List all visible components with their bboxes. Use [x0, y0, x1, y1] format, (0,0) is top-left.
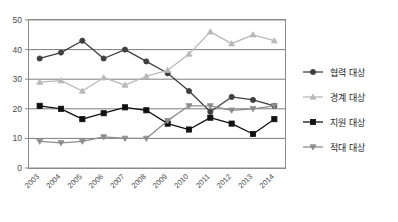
data-point	[208, 115, 213, 120]
data-point	[229, 121, 234, 126]
data-point	[229, 94, 234, 99]
y-axis-label: 40	[13, 45, 23, 55]
data-point	[80, 117, 85, 122]
legend-label: 경계 대상	[330, 92, 365, 103]
line-chart: 01020304050 2003200420052006200720082009…	[0, 0, 398, 222]
data-point	[80, 38, 85, 43]
legend-swatch-marker	[310, 119, 315, 124]
legend-label: 협력 대상	[330, 67, 365, 78]
y-axis-label: 30	[13, 74, 23, 84]
y-axis-label: 10	[13, 133, 23, 143]
legend-label: 적대 대상	[330, 142, 365, 153]
data-point	[122, 105, 127, 110]
data-point	[208, 109, 213, 114]
data-point	[186, 127, 191, 132]
data-point	[37, 103, 42, 108]
y-axis-label: 0	[17, 163, 22, 173]
data-point	[101, 111, 106, 116]
data-point	[250, 131, 255, 136]
y-axis-label: 20	[13, 104, 23, 114]
data-point	[144, 59, 149, 64]
data-point	[272, 117, 277, 122]
legend-swatch-marker	[310, 69, 315, 74]
chart-svg: 01020304050 2003200420052006200720082009…	[0, 0, 398, 222]
data-point	[101, 56, 106, 61]
legend-label: 지원 대상	[330, 118, 365, 128]
data-point	[144, 108, 149, 113]
data-point	[186, 88, 191, 93]
data-point	[250, 97, 255, 102]
data-point	[58, 50, 63, 55]
data-point	[37, 56, 42, 61]
data-point	[58, 106, 63, 111]
data-point	[122, 47, 127, 52]
y-axis-label: 50	[13, 15, 23, 25]
